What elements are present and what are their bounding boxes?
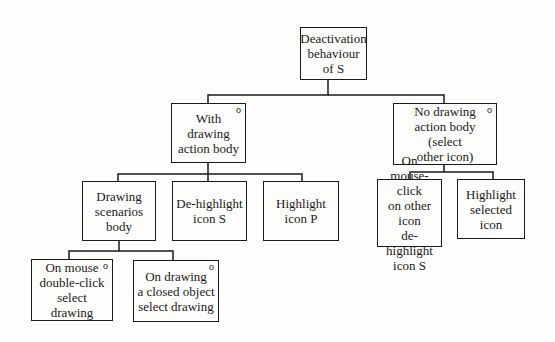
node-label: On mouse double-click select drawing [35, 260, 109, 320]
node-label: On mouse-click on other icon de-highligh… [381, 153, 438, 273]
node-with-drawing: With drawing action bodyo [171, 103, 246, 163]
selection-marker-icon: o [236, 105, 241, 115]
node-highlight-selected: Highlight selected icon [457, 179, 525, 239]
node-label: On drawing a closed object select drawin… [137, 269, 214, 314]
node-double-click: On mouse double-click select drawingo [31, 259, 113, 321]
node-label: Highlight selected icon [466, 187, 516, 232]
node-drawing-scenarios: Drawing scenarios body [82, 181, 156, 241]
node-label: Deactivation behaviour of S [300, 31, 366, 76]
node-dehighlight-s: De-highlight icon S [172, 181, 247, 241]
edge-drawing-scenarios-children [69, 241, 119, 259]
node-label: Drawing scenarios body [95, 189, 143, 234]
selection-marker-icon: o [103, 261, 108, 271]
selection-marker-icon: o [209, 262, 214, 272]
node-closed-object: On drawing a closed object select drawin… [133, 260, 219, 322]
node-mouse-click-other: On mouse-click on other icon de-highligh… [377, 179, 442, 247]
selection-marker-icon: o [487, 105, 492, 115]
edge-with-drawing-children [118, 163, 208, 181]
node-label: With drawing action body [178, 111, 239, 156]
edge-root-children [208, 80, 328, 103]
node-label: Highlight icon P [276, 196, 326, 226]
node-label: De-highlight icon S [176, 196, 242, 226]
node-highlight-p: Highlight icon P [263, 181, 339, 241]
node-root: Deactivation behaviour of S [300, 27, 367, 80]
